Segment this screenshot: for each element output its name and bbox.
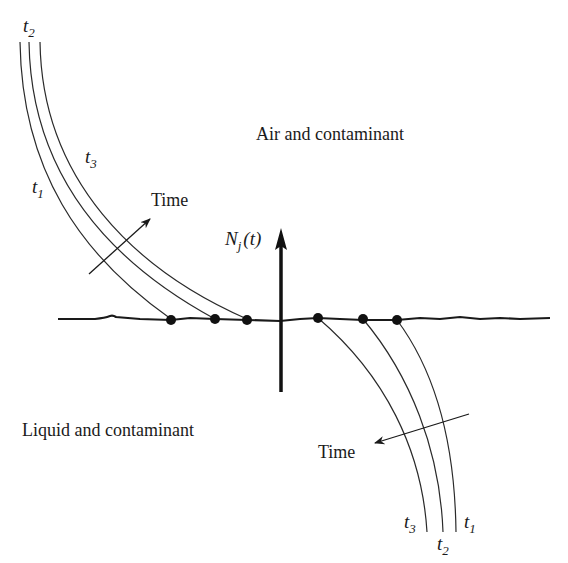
lower-point-t1	[392, 315, 402, 325]
upper-point-t1	[166, 315, 176, 325]
upper-label-t1: t1	[32, 176, 44, 201]
upper-point-t3	[242, 315, 252, 325]
upper-curve-t1	[20, 42, 171, 319]
lower-point-t3	[313, 313, 323, 323]
lower-label-t2: t2	[437, 533, 449, 558]
flux-arrow	[275, 228, 287, 392]
lower-curve-t1	[397, 320, 456, 532]
liquid-region-label: Liquid and contaminant	[22, 420, 194, 440]
upper-curve-t3	[40, 42, 247, 319]
upper-profile-curves	[20, 42, 247, 319]
lower-time-label: Time	[318, 442, 355, 462]
interface-diagram: t2 t3 t1 Time Air and contaminant Liquid…	[0, 0, 568, 563]
lower-label-t3: t3	[404, 511, 416, 536]
lower-time-arrow	[375, 414, 469, 443]
interface-line	[58, 316, 550, 321]
upper-curve-t2	[29, 42, 215, 319]
lower-point-t2	[358, 314, 368, 324]
lower-label-t1: t1	[464, 511, 476, 536]
upper-label-t3: t3	[85, 146, 97, 171]
upper-label-t2: t2	[23, 15, 35, 40]
flux-label: Nj(t)	[224, 228, 261, 253]
air-region-label: Air and contaminant	[256, 124, 404, 144]
lower-curve-t3	[318, 318, 427, 532]
upper-point-t2	[210, 314, 220, 324]
upper-time-label: Time	[151, 190, 188, 210]
